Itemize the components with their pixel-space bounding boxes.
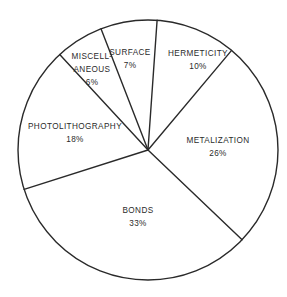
slice-category-name: HERMETICITY <box>168 49 228 58</box>
slice-category-name: BONDS <box>122 206 153 215</box>
pie-chart: HERMETICITY10%METALIZATION26%BONDS33%PHO… <box>0 0 287 297</box>
slice-percentage: 33% <box>129 219 147 228</box>
slice-percentage: 7% <box>124 61 137 70</box>
slice-category-name: PHOTOLITHOGRAPHY <box>28 122 122 131</box>
slice-category-name: ANEOUS <box>74 65 111 74</box>
slice-percentage: 6% <box>86 78 99 87</box>
slice-percentage: 10% <box>189 62 207 71</box>
slice-category-name: SURFACE <box>109 48 151 57</box>
slice-category-name: METALIZATION <box>186 136 249 145</box>
slice-percentage: 26% <box>209 149 227 158</box>
slice-percentage: 18% <box>66 135 84 144</box>
slice-category-name: MISCELL- <box>72 52 113 61</box>
